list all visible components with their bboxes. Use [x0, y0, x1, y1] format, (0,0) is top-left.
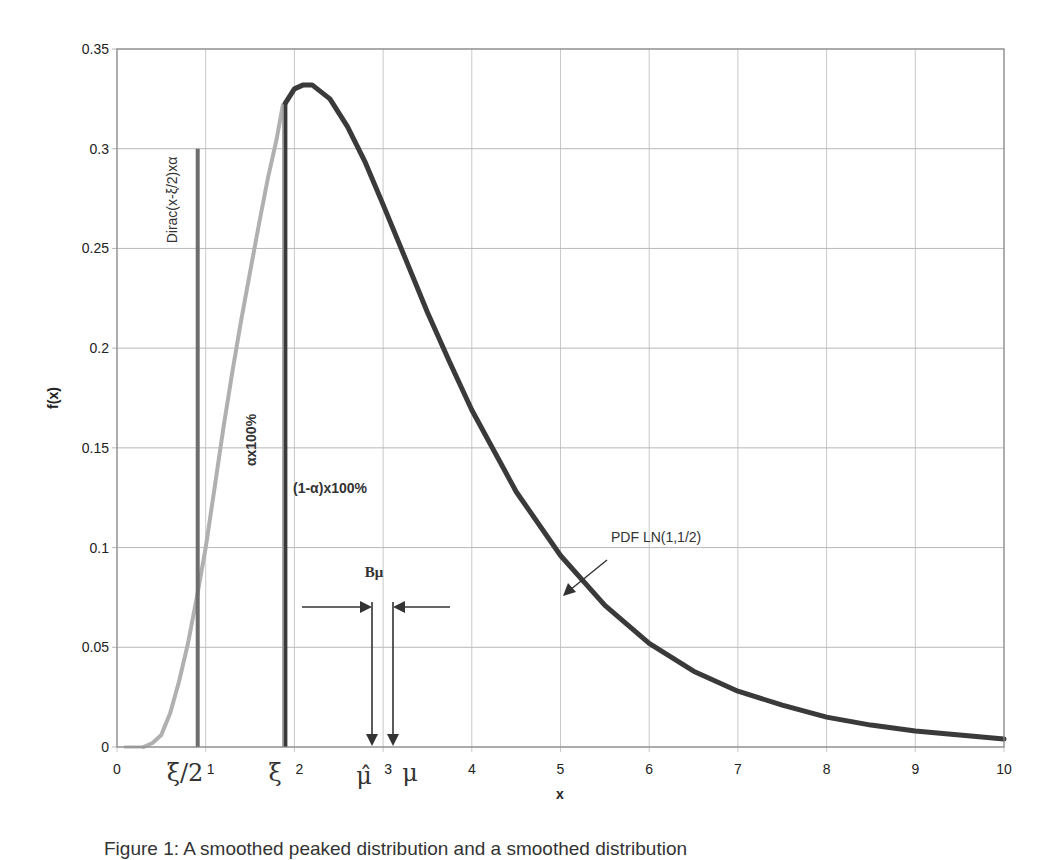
x-tick-label: 6 [645, 761, 653, 777]
figure-caption: Figure 1: A smoothed peaked distribution… [104, 838, 1004, 860]
y-tick-label: 0.25 [82, 240, 109, 256]
dirac-label: Dirac(x-ξ/2)xα [164, 157, 180, 244]
x-tick-label: 4 [468, 761, 476, 777]
x-tick-label: 9 [911, 761, 919, 777]
y-tick-label: 0.3 [90, 141, 110, 157]
annotation-arrows [302, 560, 607, 746]
x-tick-label: 8 [823, 761, 831, 777]
x-tick-label: 2 [296, 761, 304, 777]
y-tick-label: 0.35 [82, 41, 109, 57]
arrow-head-icon [360, 601, 372, 613]
x-tick-label: 10 [996, 761, 1012, 777]
y-tick-label: 0.1 [90, 540, 110, 556]
mu-label: μ [402, 759, 418, 787]
y-tick-label: 0 [101, 739, 109, 755]
pdf-label: PDF LN(1,1/2) [611, 529, 701, 545]
alpha-percent-label: αx100% [243, 413, 259, 466]
bias-label: Bμ [365, 564, 384, 580]
x-axis-title: x [556, 786, 564, 802]
arrow-head-icon [366, 734, 378, 746]
x-tick-label: 7 [734, 761, 742, 777]
y-tick-label: 0.15 [82, 440, 109, 456]
mu-hat-label: μ̂ [356, 762, 372, 790]
arrow-head-icon [393, 601, 405, 613]
x-tick-label: 3 [384, 761, 392, 777]
grid-lines [112, 49, 1004, 752]
x-tick-label: 1 [207, 761, 215, 777]
x-tick-label: 5 [557, 761, 565, 777]
y-axis-title: f(x) [45, 387, 61, 409]
y-tick-label: 0.2 [90, 340, 110, 356]
tick-labels: 01234567891000.050.10.150.20.250.30.35 [82, 41, 1012, 777]
x-tick-label: 0 [113, 761, 121, 777]
one-minus-alpha-label: (1-α)x100% [293, 480, 368, 496]
arrow-head-icon [387, 734, 399, 746]
xi-label: ξ [268, 759, 281, 787]
xi-half-label: ξ/2 [167, 759, 204, 787]
y-tick-label: 0.05 [82, 639, 109, 655]
arrow-head-icon [563, 583, 576, 596]
